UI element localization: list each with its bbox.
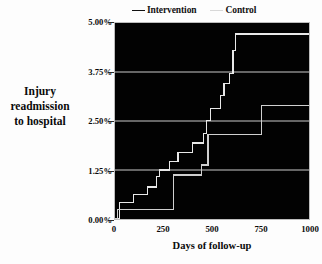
plot-svg — [115, 23, 309, 219]
grid-lines — [115, 23, 309, 170]
y-tick-label: 2.50% — [74, 116, 112, 126]
y-tick-mark — [108, 171, 114, 172]
legend-item-intervention: Intervention — [132, 5, 196, 15]
chart-figure: Intervention Control Injury readmission … — [0, 0, 322, 264]
y-axis-tick-labels: 0.00%1.25%2.50%3.75%5.00% — [70, 0, 112, 264]
y-tick-mark — [108, 220, 114, 221]
series-line-intervention — [115, 34, 309, 219]
y-tick-label: 5.00% — [74, 17, 112, 27]
legend-item-control: Control — [210, 5, 256, 15]
data-series-layer — [115, 34, 309, 219]
y-axis-title-line-2: readmission — [2, 99, 78, 114]
x-tick-label: 500 — [205, 224, 218, 234]
y-tick-mark — [108, 72, 114, 73]
x-axis-title: Days of follow-up — [114, 240, 310, 251]
y-axis-title-line-3: to hospital — [2, 114, 78, 129]
y-tick-mark — [108, 22, 114, 23]
x-tick-label: 0 — [112, 224, 116, 234]
plot-area — [114, 22, 310, 220]
x-tick-label: 250 — [156, 224, 169, 234]
legend-line-icon-control — [210, 10, 223, 11]
legend-line-icon-intervention — [132, 10, 145, 11]
y-axis-title: Injury readmission to hospital — [2, 84, 78, 129]
legend-label-intervention: Intervention — [147, 5, 196, 15]
series-line-control — [115, 105, 309, 219]
x-tick-label: 750 — [254, 224, 267, 234]
y-tick-label: 0.00% — [74, 215, 112, 225]
y-tick-mark — [108, 121, 114, 122]
y-axis-title-line-1: Injury — [2, 84, 78, 99]
y-tick-label: 1.25% — [74, 166, 112, 176]
y-tick-label: 3.75% — [74, 67, 112, 77]
legend-label-control: Control — [225, 5, 256, 15]
x-tick-label: 1000 — [301, 224, 319, 234]
chart-legend: Intervention Control — [132, 2, 312, 18]
x-axis-tick-labels: 02505007501000 — [114, 224, 310, 238]
